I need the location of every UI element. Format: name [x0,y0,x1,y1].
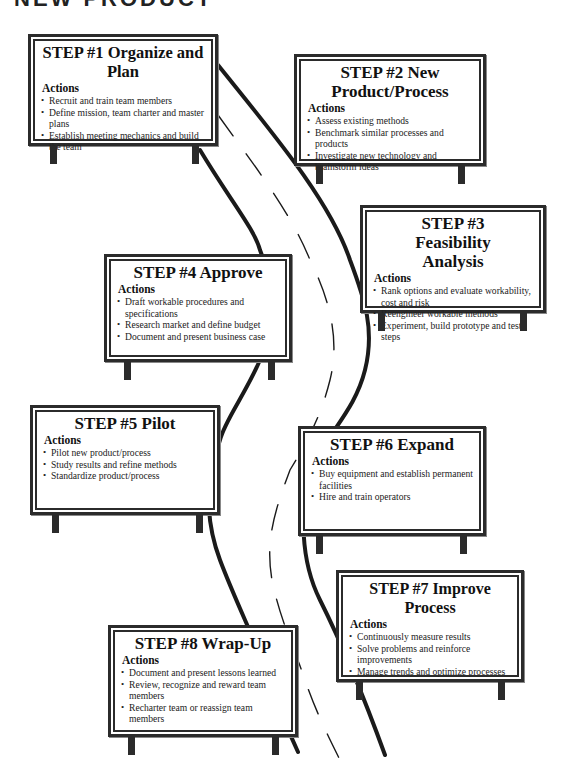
action-item: Research market and define budget [117,319,281,331]
action-list: Continuously measure results Solve probl… [349,631,513,677]
sign-board: STEP #1 Organize and Plan Actions Recrui… [28,34,218,146]
step-sign-6: STEP #6 Expand Actions Buy equipment and… [298,426,486,554]
step-title: STEP #2 New Product/Process [305,63,475,101]
sign-board: STEP #5 Pilot Actions Pilot new product/… [30,405,220,515]
sign-board: STEP #8 Wrap-Up Actions Document and pre… [108,625,298,737]
action-item: Experiment, build prototype and test ste… [373,320,535,343]
sign-post [272,737,279,755]
action-item: Define mission, team charter and master … [41,107,207,130]
step-sign-2: STEP #2 New Product/Process Actions Asse… [294,54,486,184]
sign-post [268,362,275,380]
action-list: Draft workable procedures and specificat… [117,296,281,342]
sign-post [50,146,57,164]
sign-post [520,313,527,331]
step-title: STEP #4 Approve [115,263,281,282]
sign-post [498,682,505,700]
action-list: Rank options and evaluate workability, c… [373,285,535,343]
actions-label: Actions [42,82,207,95]
sign-post [356,682,363,700]
sign-post [316,536,323,554]
step-title: STEP #5 Pilot [41,414,209,433]
action-item: Rank options and evaluate workability, c… [373,285,535,308]
action-item: Draft workable procedures and specificat… [117,296,281,319]
action-list: Recruit and train team members Define mi… [41,95,207,153]
sign-post [378,313,385,331]
step-sign-1: STEP #1 Organize and Plan Actions Recrui… [28,34,218,164]
actions-label: Actions [308,102,475,115]
step-sign-5: STEP #5 Pilot Actions Pilot new product/… [30,405,220,533]
step-sign-3: STEP #3 Feasibility Analysis Actions Ran… [360,205,546,330]
sign-post [458,166,465,184]
sign-board: STEP #6 Expand Actions Buy equipment and… [298,426,486,536]
sign-post [128,737,135,755]
action-item: Reengineer workable methods [373,308,535,320]
actions-label: Actions [122,654,287,667]
sign-board: STEP #3 Feasibility Analysis Actions Ran… [360,205,546,313]
action-item: Document and present business case [117,331,281,343]
action-item: Document and present lessons learned [121,667,287,679]
step-sign-4: STEP #4 Approve Actions Draft workable p… [104,254,292,380]
actions-label: Actions [44,434,209,447]
action-item: Study results and refine methods [43,459,209,471]
action-list: Assess existing methods Benchmark simila… [307,115,475,173]
step-title: STEP #8 Wrap-Up [119,634,287,653]
action-item: Continuously measure results [349,631,513,643]
step-sign-7: STEP #7 Improve Process Actions Continuo… [336,570,524,700]
action-item: Recruit and train team members [41,95,207,107]
sign-board: STEP #7 Improve Process Actions Continuo… [336,570,524,682]
action-item: Establish meeting mechanics and build th… [41,130,207,153]
step-title: STEP #7 Improve Process [347,579,513,617]
action-item: Investigate new technology and brainstor… [307,150,475,173]
sign-board: STEP #4 Approve Actions Draft workable p… [104,254,292,362]
actions-label: Actions [374,272,535,285]
sign-post [460,536,467,554]
step-title: STEP #1 Organize and Plan [39,43,207,81]
action-list: Buy equipment and establish permanent fa… [311,468,475,503]
action-item: Review, recognize and reward team member… [121,679,287,702]
sign-post [52,515,59,533]
step-title: STEP #6 Expand [309,435,475,454]
action-list: Pilot new product/process Study results … [43,447,209,482]
step-title: STEP #3 Feasibility Analysis [371,214,535,271]
action-item: Recharter team or reassign team members [121,702,287,725]
sign-post [316,166,323,184]
step-sign-8: STEP #8 Wrap-Up Actions Document and pre… [108,625,298,755]
sign-post [196,515,203,533]
sign-post [124,362,131,380]
action-list: Document and present lessons learned Rev… [121,667,287,725]
actions-label: Actions [312,455,475,468]
actions-label: Actions [118,283,281,296]
action-item: Assess existing methods [307,115,475,127]
action-item: Solve problems and reinforce improvement… [349,643,513,666]
action-item: Hire and train operators [311,491,475,503]
sign-post [192,146,199,164]
actions-label: Actions [350,618,513,631]
action-item: Pilot new product/process [43,447,209,459]
sign-board: STEP #2 New Product/Process Actions Asse… [294,54,486,166]
action-item: Benchmark similar processes and products [307,127,475,150]
action-item: Standardize product/process [43,470,209,482]
action-item: Manage trends and optimize processes [349,666,513,678]
action-item: Buy equipment and establish permanent fa… [311,468,475,491]
